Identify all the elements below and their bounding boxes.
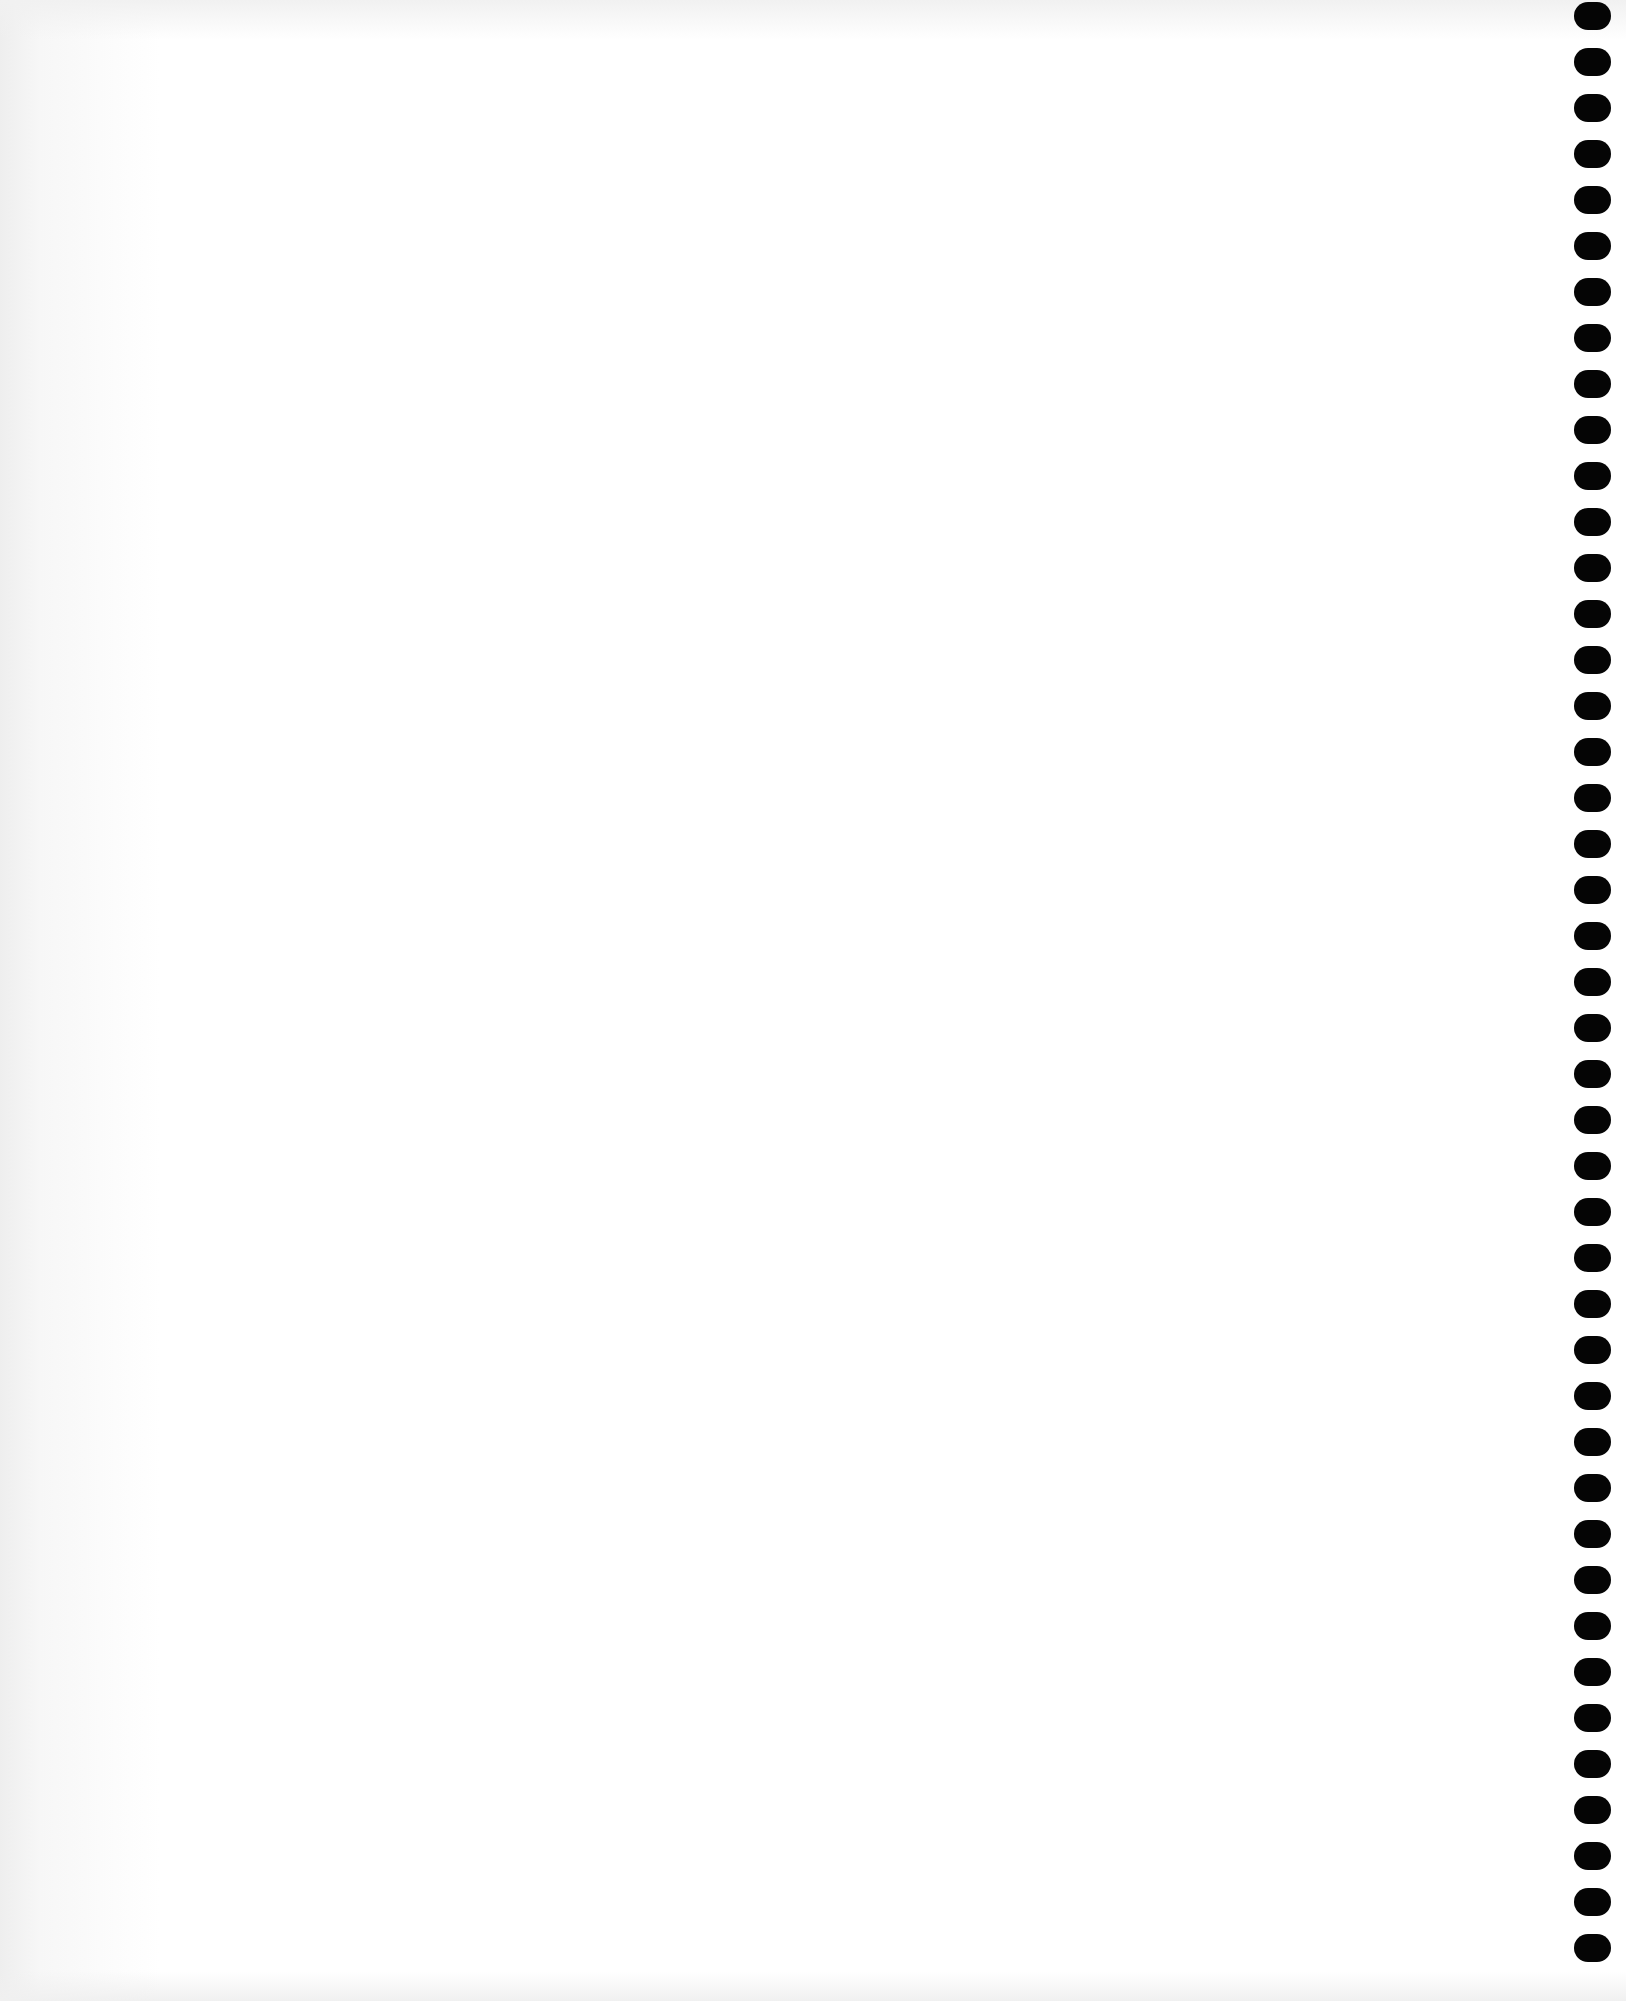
binding-hole [1574,646,1611,674]
binding-hole [1574,554,1611,582]
binding-hole [1574,1106,1611,1134]
binding-hole [1574,1014,1611,1042]
binding-hole [1574,738,1611,766]
binding-hole [1574,1336,1611,1364]
binding-hole [1574,1198,1611,1226]
binding-hole [1574,968,1611,996]
binding-hole [1574,1658,1611,1686]
binding-hole [1574,1290,1611,1318]
binding-hole [1574,416,1611,444]
notebook-page [0,0,1626,2001]
binding-hole [1574,1060,1611,1088]
spiral-binding-holes [1574,0,1614,2001]
binding-hole [1574,94,1611,122]
binding-hole [1574,48,1611,76]
binding-hole [1574,1704,1611,1732]
binding-hole [1574,1520,1611,1548]
binding-hole [1574,1888,1611,1916]
binding-hole [1574,1152,1611,1180]
binding-hole [1574,1566,1611,1594]
binding-hole [1574,830,1611,858]
binding-hole [1574,1244,1611,1272]
binding-hole [1574,370,1611,398]
binding-hole [1574,2,1611,30]
binding-hole [1574,1934,1611,1962]
binding-hole [1574,324,1611,352]
binding-hole [1574,922,1611,950]
binding-hole [1574,278,1611,306]
binding-hole [1574,784,1611,812]
binding-hole [1574,462,1611,490]
binding-hole [1574,692,1611,720]
binding-hole [1574,1842,1611,1870]
binding-hole [1574,508,1611,536]
binding-hole [1574,1428,1611,1456]
binding-hole [1574,1382,1611,1410]
binding-hole [1574,140,1611,168]
binding-hole [1574,600,1611,628]
binding-hole [1574,1796,1611,1824]
binding-hole [1574,1612,1611,1640]
binding-hole [1574,1750,1611,1778]
binding-hole [1574,1474,1611,1502]
binding-hole [1574,232,1611,260]
binding-hole [1574,186,1611,214]
binding-hole [1574,876,1611,904]
